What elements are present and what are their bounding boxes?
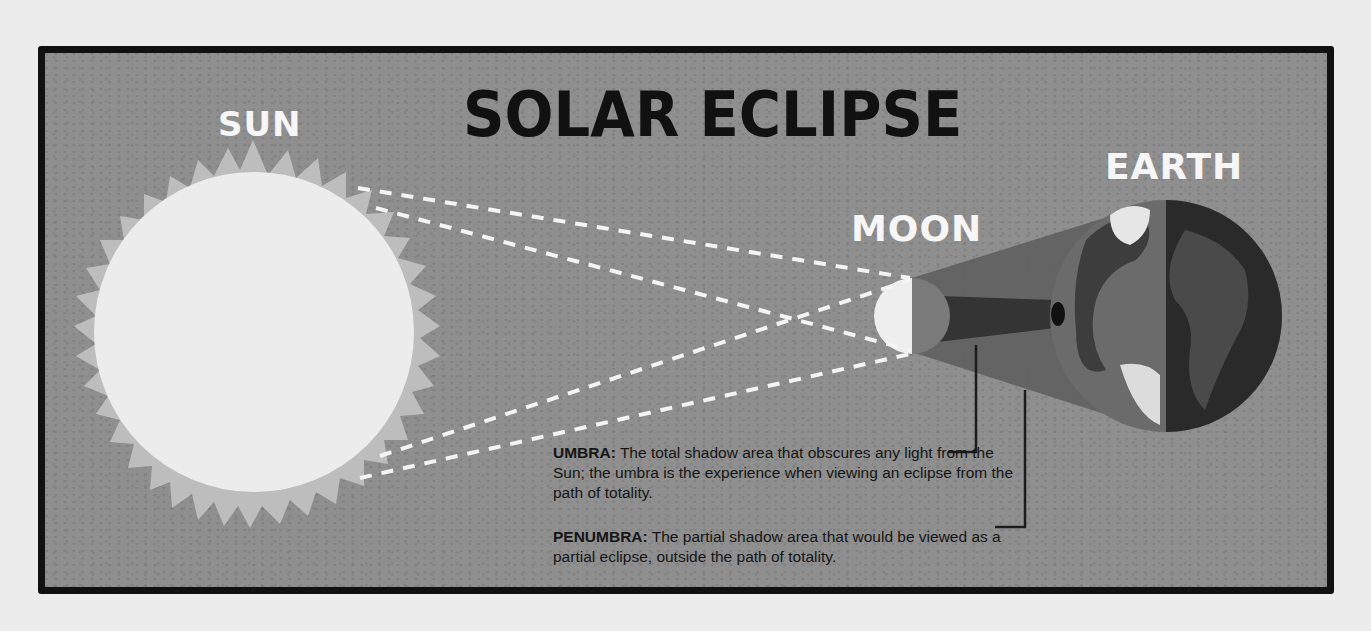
penumbra-term: PENUMBRA: — [553, 528, 648, 545]
page-title: SOLAR ECLIPSE — [463, 78, 962, 151]
light-rays — [358, 188, 910, 478]
penumbra-definition: PENUMBRA: The partial shadow area that w… — [553, 527, 1023, 567]
umbra-term: UMBRA: — [553, 444, 616, 461]
sun-core — [94, 172, 414, 492]
umbra-text: The total shadow area that obscures any … — [553, 444, 1013, 501]
umbra-definition: UMBRA: The total shadow area that obscur… — [553, 443, 1023, 503]
moon-label: MOON — [851, 208, 982, 249]
earth-label: EARTH — [1105, 146, 1243, 187]
sun-label: SUN — [218, 104, 302, 144]
earth-globe — [1050, 200, 1282, 432]
